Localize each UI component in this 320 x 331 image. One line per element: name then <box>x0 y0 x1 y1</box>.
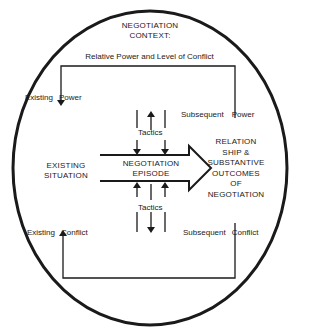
existing-label: Existing <box>27 228 55 237</box>
context-title-line2: CONTEXT: <box>110 31 190 41</box>
subsequent-power-label: SubsequentPower <box>181 110 254 120</box>
negotiation-outcomes: RELATION SHIP & SUBSTANTIVE OUTCOMES OF … <box>196 137 276 200</box>
tactics-top-label: Tactics <box>138 128 162 138</box>
outcomes-line4: OUTCOMES <box>196 169 276 180</box>
episode-line2: EPISODE <box>112 169 190 179</box>
context-subtitle: Relative Power and Level of Conflict <box>62 52 237 62</box>
existing-power-label: ExistingPower <box>25 93 82 103</box>
outcomes-line2: SHIP & <box>196 148 276 159</box>
outcomes-line3: SUBSTANTIVE <box>196 158 276 169</box>
subsequent-conflict-label: SubsequentConflict <box>183 228 258 238</box>
existing-label: Existing <box>25 93 53 102</box>
existing-situation: EXISTING SITUATION <box>36 161 96 181</box>
power-label: Power <box>59 93 82 102</box>
outcomes-line1: RELATION <box>196 137 276 148</box>
subsequent-label: Subsequent <box>181 110 224 119</box>
tactics-bottom-label: Tactics <box>138 203 162 213</box>
conflict-label: Conflict <box>232 228 259 237</box>
context-title: NEGOTIATION CONTEXT: <box>110 21 190 41</box>
power-label: Power <box>232 110 255 119</box>
context-title-line1: NEGOTIATION <box>110 21 190 31</box>
subsequent-label: Subsequent <box>183 228 226 237</box>
existing-situation-line2: SITUATION <box>36 171 96 181</box>
existing-conflict-label: ExistingConflict <box>27 228 88 238</box>
existing-situation-line1: EXISTING <box>36 161 96 171</box>
negotiation-episode: NEGOTIATION EPISODE <box>112 159 190 179</box>
outcomes-line5: OF <box>196 179 276 190</box>
episode-line1: NEGOTIATION <box>112 159 190 169</box>
outcomes-line6: NEGOTIATION <box>196 190 276 201</box>
conflict-label: Conflict <box>61 228 88 237</box>
